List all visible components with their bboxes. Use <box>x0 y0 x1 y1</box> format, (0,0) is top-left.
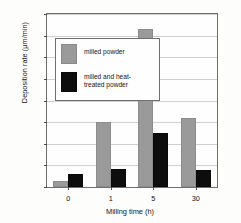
chart-figure: Deposition rate (µm/min) 102030405060708… <box>0 0 241 223</box>
y-tick-mark-10 <box>44 165 47 166</box>
bar-5-series-2 <box>153 133 168 187</box>
legend-item-milled-powder: milled powder <box>61 44 155 64</box>
bar-0-series-1 <box>53 181 68 187</box>
legend-label-line-1: milled and heat- <box>84 73 131 80</box>
y-tick-mark-0 <box>44 187 47 188</box>
x-tick-mark-1 <box>111 187 112 190</box>
y-tick-mark-50 <box>44 79 47 80</box>
chart-legend: milled powder milled and heat- treated p… <box>55 38 160 101</box>
bar-group-30 <box>180 118 212 187</box>
legend-swatch-milled-powder <box>61 44 77 64</box>
x-tick-mark-5 <box>153 187 154 190</box>
x-tick-label-1: 1 <box>88 194 134 203</box>
y-axis-label: Deposition rate (µm/min) <box>20 0 29 133</box>
x-axis-label: Milling time (h) <box>40 207 220 216</box>
bar-30-series-1 <box>181 118 196 187</box>
legend-label-milled-powder: milled powder <box>84 44 125 56</box>
y-tick-mark-70 <box>44 36 47 37</box>
legend-label-heat-treated-powder: milled and heat- treated powder <box>84 72 131 89</box>
y-tick-mark-20 <box>44 144 47 145</box>
y-tick-mark-30 <box>44 122 47 123</box>
x-tick-mark-0 <box>68 187 69 190</box>
bar-0-series-2 <box>68 174 83 187</box>
legend-label-line-2: treated powder <box>84 81 128 88</box>
y-tick-mark-60 <box>44 57 47 58</box>
x-tick-label-5: 5 <box>130 194 176 203</box>
y-tick-mark-40 <box>44 101 47 102</box>
bar-1-series-1 <box>96 122 111 187</box>
plot-area: 1020304050607080 01530 milled powder mil… <box>46 13 218 188</box>
y-tick-mark-80 <box>44 14 47 15</box>
x-tick-label-30: 30 <box>173 194 219 203</box>
x-tick-label-0: 0 <box>45 194 91 203</box>
bar-1-series-2 <box>111 169 126 187</box>
gridline-80 <box>47 14 217 15</box>
legend-item-heat-treated-powder: milled and heat- treated powder <box>61 72 155 92</box>
bar-group-0 <box>52 174 84 187</box>
gridline-70 <box>47 36 217 37</box>
bar-30-series-2 <box>196 170 211 187</box>
x-tick-mark-30 <box>196 187 197 190</box>
legend-swatch-heat-treated-powder <box>61 72 77 92</box>
bar-group-1 <box>95 122 127 187</box>
